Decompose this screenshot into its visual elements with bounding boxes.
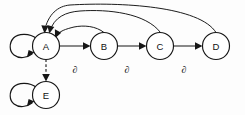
edge-a-to-e-arrowhead xyxy=(42,74,50,82)
node-c[interactable]: C xyxy=(147,33,174,60)
state-diagram: A B C D E ∂ ∂ ∂ xyxy=(0,0,245,115)
edge-c-to-d-arrowhead xyxy=(195,42,203,50)
node-d-label: D xyxy=(213,41,220,52)
edge-b-to-c xyxy=(118,42,147,50)
edge-c-to-d xyxy=(174,42,203,50)
node-c-label: C xyxy=(157,41,164,52)
node-b-label: B xyxy=(101,41,107,52)
edge-a-to-e xyxy=(42,60,50,82)
node-e-label: E xyxy=(43,90,49,101)
diagram-canvas: A B C D E ∂ ∂ ∂ xyxy=(0,0,245,115)
edge-b-to-c-arrowhead xyxy=(139,42,147,50)
node-b[interactable]: B xyxy=(91,33,118,60)
node-a[interactable]: A xyxy=(33,33,60,60)
edge-label-ab: ∂ xyxy=(73,64,78,75)
node-d[interactable]: D xyxy=(203,33,230,60)
node-a-label: A xyxy=(43,41,50,52)
edge-label-cd: ∂ xyxy=(182,64,187,75)
node-e[interactable]: E xyxy=(33,82,60,109)
edge-a-to-b xyxy=(60,42,91,50)
edge-label-bc: ∂ xyxy=(125,64,130,75)
edge-a-to-b-arrowhead xyxy=(83,42,91,50)
